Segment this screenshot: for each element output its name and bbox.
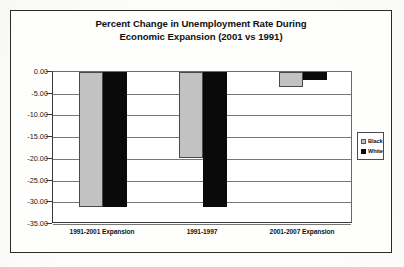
legend-label: White — [368, 148, 383, 154]
y-axis-tick-label: -10.00 — [4, 110, 48, 119]
legend-item-black[interactable]: Black — [360, 136, 381, 146]
bar-white-2 — [303, 72, 327, 80]
y-axis-tick-mark — [46, 223, 52, 224]
bar-black-2 — [279, 72, 303, 87]
bar-white-0 — [103, 72, 127, 207]
legend-label: Black — [368, 138, 382, 144]
chart-title: Percent Change in Unemployment Rate Duri… — [10, 18, 392, 43]
y-axis-tick-label: -30.00 — [4, 197, 48, 206]
chart-screenshot: Percent Change in Unemployment Rate Duri… — [0, 0, 404, 267]
category-label-2: 2001-2007 Expansion — [252, 228, 352, 235]
legend-swatch-icon — [361, 149, 366, 154]
y-axis-tick-label: -35.00 — [4, 219, 48, 228]
y-axis-tick-label: -15.00 — [4, 132, 48, 141]
category-label-1: 1991-1997 — [152, 228, 252, 235]
category-label-0: 1991-2001 Expansion — [52, 228, 152, 235]
chart-legend: BlackWhite — [357, 132, 384, 160]
gridline — [53, 224, 351, 225]
legend-item-white[interactable]: White — [360, 146, 381, 156]
chart-title-line-1: Percent Change in Unemployment Rate Duri… — [95, 18, 306, 29]
plot-area — [52, 71, 352, 223]
y-axis-tick-label: -25.00 — [4, 175, 48, 184]
y-axis-tick-label: 0.00 — [4, 67, 48, 76]
y-axis-tick-label: -20.00 — [4, 153, 48, 162]
y-axis-tick-label: -5.00 — [4, 88, 48, 97]
bar-black-0 — [79, 72, 103, 207]
legend-swatch-icon — [361, 139, 366, 144]
bar-black-1 — [179, 72, 203, 158]
chart-title-line-2: Economic Expansion (2001 vs 1991) — [10, 31, 392, 44]
bar-white-1 — [203, 72, 227, 207]
